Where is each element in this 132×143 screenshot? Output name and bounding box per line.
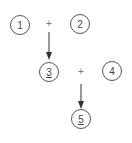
node-5-label: 5 (78, 114, 84, 125)
node-5: 5 (71, 109, 91, 129)
arrow-op1-to-n3 (46, 32, 52, 60)
arrow-op2-to-n5 (78, 84, 84, 109)
node-1: 1 (10, 15, 30, 35)
node-3: 3 (39, 62, 59, 82)
plus-operator-2: + (76, 67, 86, 77)
node-2-label: 2 (77, 19, 83, 30)
node-1-label: 1 (17, 20, 23, 31)
node-4-label: 4 (109, 66, 115, 77)
plus-operator-1: + (44, 19, 54, 29)
node-3-label: 3 (46, 67, 52, 78)
node-4: 4 (102, 61, 122, 81)
node-2: 2 (70, 14, 90, 34)
